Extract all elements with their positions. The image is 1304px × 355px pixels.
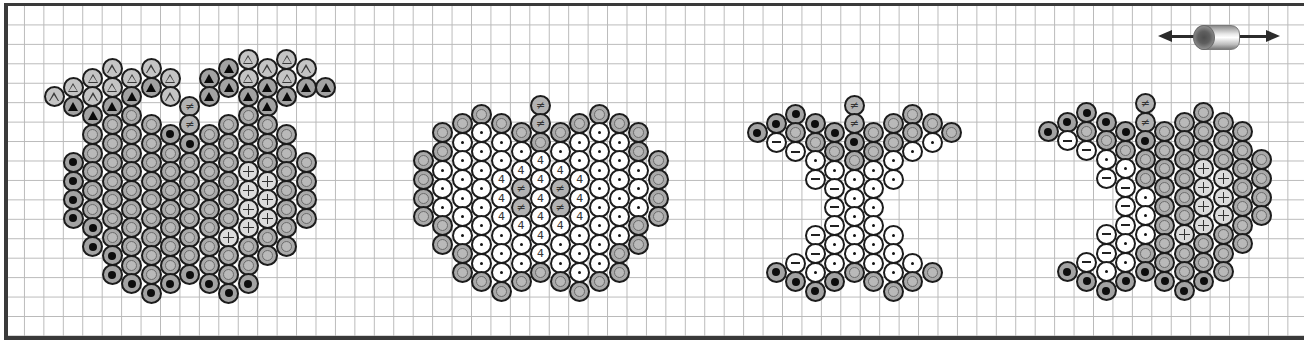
thread-direction-icon: [1158, 22, 1280, 52]
bead-dot: [1135, 224, 1156, 245]
plus-icon: [1218, 210, 1229, 221]
plus-icon: [1198, 201, 1209, 212]
bead-ring: [1213, 149, 1234, 170]
bead-ring: [1154, 121, 1175, 142]
plus-icon: [1218, 173, 1229, 184]
apple-pattern-4: ≠≠: [0, 0, 1304, 355]
bead-dot: [1115, 252, 1136, 273]
bead-plus: [1174, 224, 1195, 245]
not-equal-icon: ≠: [1141, 117, 1150, 128]
bead-solid: [1096, 280, 1117, 301]
tube-bead-hole-icon: [1193, 25, 1215, 50]
bead-minus: [1057, 130, 1078, 151]
arrow-right-icon: [1266, 30, 1280, 42]
bead-solid: [1076, 271, 1097, 292]
bead-ring: [1154, 177, 1175, 198]
bead-solid: [1154, 271, 1175, 292]
bead-plus: [1193, 177, 1214, 198]
bead-minus: [1115, 196, 1136, 217]
bead-ring: [1135, 149, 1156, 170]
bead-ring: [1232, 233, 1253, 254]
bead-solid: [1193, 271, 1214, 292]
plus-icon: [1179, 229, 1190, 240]
plus-icon: [1198, 163, 1209, 174]
plus-icon: [1198, 182, 1209, 193]
bead-plus: [1213, 168, 1234, 189]
bead-ring: [1251, 205, 1272, 226]
not-equal-icon: ≠: [1141, 98, 1150, 109]
plus-icon: [1198, 220, 1209, 231]
bead-dot: [1096, 149, 1117, 170]
bead-minus: [1115, 177, 1136, 198]
bead-ring: [1251, 149, 1272, 170]
bead-solid: [1115, 271, 1136, 292]
bead-solid: [1038, 121, 1059, 142]
bead-ring: [1154, 196, 1175, 217]
bead-ring: [1232, 177, 1253, 198]
bead-ring: [1154, 252, 1175, 273]
bead-ring: [1193, 121, 1214, 142]
bead-solid: [1057, 261, 1078, 282]
plus-icon: [1218, 192, 1229, 203]
bead-ring: [1193, 252, 1214, 273]
bead-solid: [1115, 121, 1136, 142]
bead-minus: [1076, 252, 1097, 273]
bead-ring: [1213, 224, 1234, 245]
bead-ring: [1076, 121, 1097, 142]
bead-minus: [1076, 140, 1097, 161]
bead-pattern-sheet: ≠≠ 4444≠≠4≠≠4444444≠≠4444 ≠≠ ≠≠: [0, 0, 1304, 355]
bead-ring: [1232, 196, 1253, 217]
bead-ring: [1174, 149, 1195, 170]
arrow-left-icon: [1158, 30, 1172, 42]
bead-minus: [1096, 168, 1117, 189]
bead-ring: [1135, 168, 1156, 189]
bead-solid: [1174, 280, 1195, 301]
bead-minus: [1096, 224, 1117, 245]
bead-neq: ≠: [1135, 93, 1156, 114]
bead-ring: [1213, 261, 1234, 282]
bead-ring: [1232, 121, 1253, 142]
bead-ring: [1174, 168, 1195, 189]
bead-solid: [1135, 261, 1156, 282]
bead-ring: [1251, 168, 1272, 189]
bead-plus: [1193, 196, 1214, 217]
